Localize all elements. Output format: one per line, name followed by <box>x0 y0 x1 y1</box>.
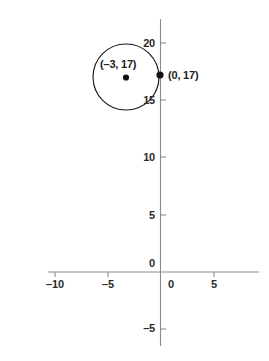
plot-canvas <box>0 0 269 361</box>
x-tick-label-minus10: –10 <box>35 278 75 290</box>
coordinate-plane-figure: 20 15 10 5 0 –5 –10 –5 0 5 (–3, 17) (0, … <box>0 0 269 361</box>
y-tick-label-20: 20 <box>119 37 155 49</box>
center-point-marker <box>123 74 129 80</box>
edge-point-marker <box>156 71 163 78</box>
x-tick-label-minus5: –5 <box>88 278 128 290</box>
y-tick-label-15: 15 <box>119 94 155 106</box>
center-point-label: (–3, 17) <box>100 58 136 70</box>
edge-point-label: (0, 17) <box>168 69 198 81</box>
y-tick-label-10: 10 <box>119 151 155 163</box>
x-tick-label-5: 5 <box>194 278 234 290</box>
y-tick-label-minus5: –5 <box>119 322 155 334</box>
y-tick-label-0: 0 <box>119 257 155 269</box>
y-tick-label-5: 5 <box>119 209 155 221</box>
x-tick-label-0: 0 <box>164 278 178 290</box>
